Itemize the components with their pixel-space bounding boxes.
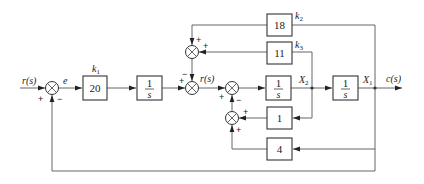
x1-label: X1 [362,74,373,87]
inner-summer-minus: − [236,95,241,105]
block-integrator1: 1 s [137,76,162,100]
k3-label: k3 [295,39,303,52]
main-summer [46,82,59,95]
top-summer [186,46,199,59]
main-summer-minus: − [57,94,62,104]
bottom-summer [226,112,239,125]
bottom-summer-plus-bottom: + [236,125,241,135]
svg-text:1: 1 [343,77,349,89]
svg-text:s: s [148,89,152,100]
inner-summer-plus: + [219,92,224,102]
k2-label: k2 [295,10,303,23]
block-k2: 18 [267,14,292,36]
block-feedback-4: 4 [267,138,292,160]
svg-text:20: 20 [90,82,102,94]
block-integrator3: 1 s [333,76,358,100]
fb1-in-wire [293,88,312,118]
block-k1: 20 [83,76,107,100]
svg-text:1: 1 [147,77,153,89]
block-k3: 11 [267,42,292,64]
main-summer-plus: + [38,94,43,104]
inner-reference-label: r(s) [200,73,215,85]
x2-label: X2 [298,74,309,87]
svg-text:s: s [277,89,281,100]
error-label: e [63,75,68,86]
svg-text:11: 11 [274,47,285,59]
svg-text:4: 4 [277,143,283,155]
svg-text:1: 1 [276,77,282,89]
block-feedback-1: 1 [267,107,292,129]
bottom-summer-plus-right: + [243,107,248,117]
top-summer-plus-right: + [203,41,208,51]
block-integrator2: 1 s [266,76,291,100]
middle-summer [186,82,199,95]
svg-text:18: 18 [274,19,286,31]
outer-feedback-wire [52,95,375,171]
top-summer-plus-top: + [196,35,201,45]
output-label: c(s) [386,73,402,85]
inner-summer [226,82,239,95]
middle-summer-minus: − [182,69,187,79]
input-label: r(s) [22,75,37,87]
svg-text:s: s [344,89,348,100]
svg-text:1: 1 [277,112,283,124]
block-diagram: + − + + + − + − + + 20 k1 1 s 1 s 1 s 18… [0,0,424,184]
k1-label: k1 [92,63,100,76]
